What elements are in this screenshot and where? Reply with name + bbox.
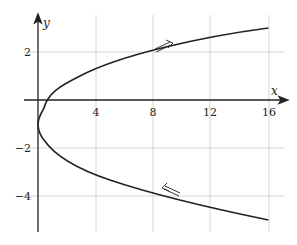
grid — [24, 15, 284, 232]
direction-arrow-upper-icon — [155, 40, 173, 52]
x-axis-arrow-icon — [279, 97, 288, 104]
direction-arrow-lower-icon — [162, 183, 180, 196]
parabola-chart: 4 8 12 16 2 −2 −4 x y — [0, 0, 297, 245]
y-tick-neg4: −4 — [15, 190, 31, 203]
x-tick-4: 4 — [93, 106, 100, 119]
x-tick-16: 16 — [262, 106, 276, 119]
x-tick-8: 8 — [150, 106, 157, 119]
y-axis-arrow-icon — [35, 14, 42, 23]
y-tick-neg2: −2 — [15, 142, 31, 155]
y-tick-2: 2 — [24, 46, 31, 59]
y-axis-label: y — [42, 16, 50, 30]
x-tick-12: 12 — [203, 106, 217, 119]
x-axis-label: x — [271, 84, 278, 98]
